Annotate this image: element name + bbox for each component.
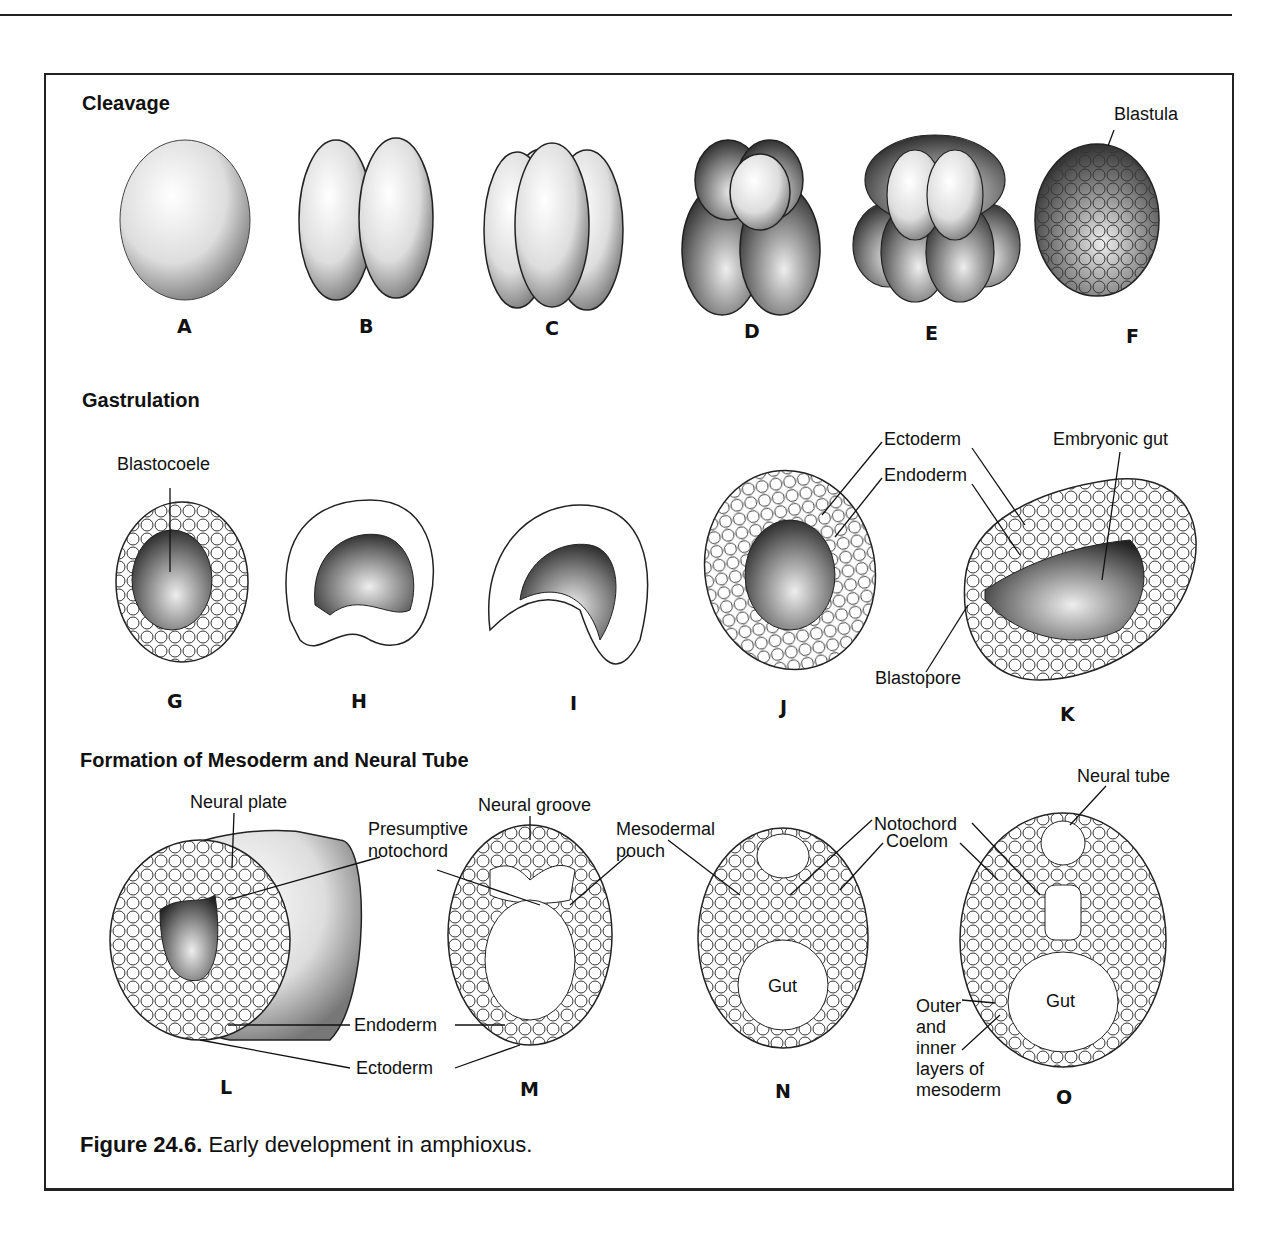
annotation-ectoderm: Ectoderm [356, 1058, 433, 1079]
annotation-coelom: Coelom [886, 831, 948, 852]
section-title-mesoderm: Formation of Mesoderm and Neural Tube [80, 749, 469, 772]
figure-number: Figure 24.6. [80, 1132, 202, 1157]
annotation-endoderm: Endoderm [354, 1015, 437, 1036]
annotation-embryonic-gut: Embryonic gut [1053, 429, 1168, 450]
stage-i-gastrula-invagination [489, 505, 648, 664]
annotation-outer-line-4: layers of [916, 1059, 1001, 1080]
annotation-outer-line-3: inner [916, 1038, 1001, 1059]
stage-label-h: H [351, 690, 367, 712]
stage-label-m: M [520, 1078, 539, 1100]
stage-label-i: I [570, 692, 577, 714]
annotation-endoderm-gastrula: Endoderm [884, 465, 967, 486]
stage-label-n: N [775, 1080, 791, 1102]
stage-label-k: K [1060, 703, 1075, 725]
stage-label-f: F [1126, 325, 1139, 347]
annotation-blastocoele: Blastocoele [117, 454, 210, 475]
stage-k-gastrula-elongated [964, 479, 1196, 680]
section-title-gastrulation: Gastrulation [82, 389, 200, 412]
stage-e-sixteen-cell [853, 135, 1020, 302]
stage-h-early-gastrula [286, 500, 433, 646]
figure-caption-text: Early development in amphioxus. [208, 1132, 532, 1157]
stage-a-zygote [120, 140, 250, 300]
annotation-outer-line-2: and [916, 1017, 1001, 1038]
stage-label-g: G [167, 690, 183, 712]
annotation-blastopore: Blastopore [875, 668, 961, 689]
stage-c-four-cell [484, 143, 623, 310]
figure-caption: Figure 24.6. Early development in amphio… [80, 1132, 532, 1158]
annotation-mesodermal-pouch-1: Mesodermal [616, 819, 715, 840]
annotation-gut-n: Gut [768, 976, 797, 997]
annotation-outer-line-1: Outer [916, 996, 1001, 1017]
annotation-ectoderm-gastrula: Ectoderm [884, 429, 961, 450]
annotation-mesodermal-pouch-2: pouch [616, 841, 665, 862]
stage-d-eight-cell [682, 140, 820, 315]
annotation-blastula: Blastula [1114, 104, 1178, 125]
stage-n-mesodermal-pouch [698, 828, 868, 1048]
stage-label-j: J [780, 696, 787, 718]
stage-label-e: E [925, 322, 938, 344]
stage-label-c: C [545, 317, 559, 339]
annotation-neural-groove: Neural groove [478, 795, 591, 816]
stage-l-neurula-3d [110, 830, 361, 1040]
figure-illustrations [0, 0, 1278, 1241]
annotation-outer-inner-mesoderm: Outer and inner layers of mesoderm [916, 996, 1001, 1101]
stage-b-two-cell [299, 138, 433, 300]
annotation-neural-plate: Neural plate [190, 792, 287, 813]
stage-f-blastula [1035, 130, 1159, 296]
stage-g-blastula-section [116, 488, 248, 662]
annotation-outer-line-5: mesoderm [916, 1080, 1001, 1101]
stage-label-a: A [177, 315, 192, 337]
stage-label-l: L [220, 1076, 232, 1098]
annotation-neural-tube: Neural tube [1077, 766, 1170, 787]
annotation-presumptive-notochord-1: Presumptive [368, 819, 468, 840]
stage-label-b: B [359, 315, 373, 337]
stage-label-o: O [1056, 1086, 1072, 1108]
annotation-gut-o: Gut [1046, 991, 1075, 1012]
stage-label-d: D [744, 320, 760, 342]
annotation-presumptive-notochord-2: notochord [368, 841, 448, 862]
stage-j-late-gastrula [689, 457, 891, 683]
section-title-cleavage: Cleavage [82, 92, 170, 115]
stage-m-neural-groove [448, 825, 612, 1045]
